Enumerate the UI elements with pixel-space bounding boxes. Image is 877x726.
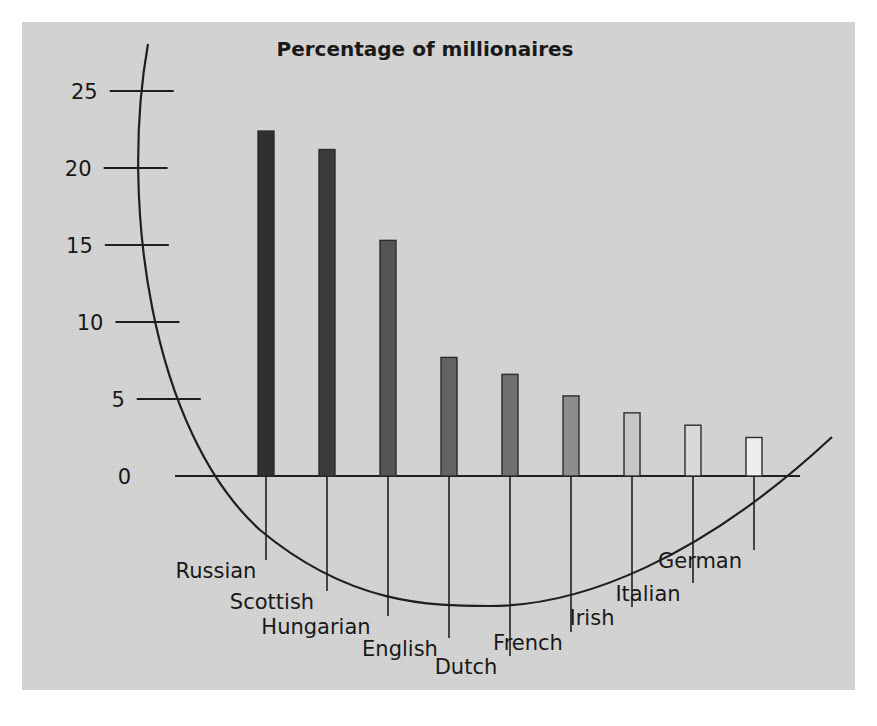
- y-axis-ticks: [104, 91, 201, 399]
- bar-chart: Percentage of millionaires 0510152025 Ru…: [0, 0, 877, 726]
- y-axis-tick-label: 10: [77, 311, 104, 335]
- chart-title: Percentage of millionaires: [277, 37, 574, 61]
- bar: [685, 425, 701, 476]
- bar: [258, 131, 274, 476]
- category-label: Russian: [176, 559, 257, 583]
- bar: [380, 240, 396, 476]
- category-label: Hungarian: [261, 615, 370, 639]
- y-axis-tick-label: 20: [65, 157, 92, 181]
- decorative-arc: [138, 44, 832, 606]
- y-axis-tick-label: 25: [71, 80, 98, 104]
- bar: [441, 357, 457, 476]
- category-label: Italian: [615, 582, 680, 606]
- y-axis-tick-labels: 0510152025: [65, 80, 131, 489]
- category-label: German: [658, 549, 742, 573]
- category-label-group: RussianScottishHungarianEnglishDutchFren…: [176, 549, 742, 679]
- y-axis-tick-label: 0: [118, 465, 131, 489]
- chart-figure: Percentage of millionaires 0510152025 Ru…: [0, 0, 877, 726]
- bar: [319, 150, 335, 476]
- bar: [563, 396, 579, 476]
- y-axis-tick-label: 5: [111, 388, 124, 412]
- bar: [502, 374, 518, 476]
- bar-group: [258, 131, 762, 476]
- category-label: Irish: [570, 606, 615, 630]
- bar: [746, 438, 762, 477]
- y-axis-tick-label: 15: [66, 234, 93, 258]
- category-label: French: [493, 631, 563, 655]
- category-label: Scottish: [230, 590, 314, 614]
- category-label: Dutch: [435, 655, 498, 679]
- bar: [624, 413, 640, 476]
- category-label: English: [362, 637, 438, 661]
